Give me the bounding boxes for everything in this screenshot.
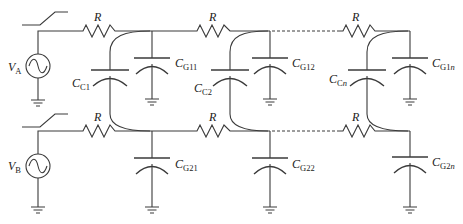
sine-wave-icon — [29, 159, 47, 173]
ground-capacitor-g2n-icon — [392, 131, 428, 213]
resistor-a2-label: R — [208, 10, 217, 24]
coupling-capacitor-cn-label: CCn — [329, 72, 347, 88]
source-va-label: VA — [8, 60, 22, 76]
resistor-b1-label: R — [93, 110, 102, 124]
ground-capacitor-g2n-label: CG2n — [432, 155, 455, 171]
resistor-bn-label: R — [351, 110, 360, 124]
ground-icon — [31, 207, 45, 213]
switch-b-icon — [22, 114, 68, 127]
coupling-capacitor-c2-label: CC2 — [194, 81, 212, 97]
sine-wave-icon — [29, 59, 47, 73]
coupling-capacitor-c2-icon — [211, 31, 268, 131]
ground-capacitor-g12-icon — [252, 31, 288, 105]
switch-a-icon — [22, 12, 68, 25]
source-va-group: VA — [8, 12, 80, 106]
ground-capacitor-g22-label: CG22 — [292, 157, 315, 173]
wire — [38, 31, 80, 54]
ground-capacitor-g11-label: CG11 — [175, 56, 197, 72]
ground-capacitor-g22-icon — [252, 131, 288, 213]
wire — [38, 131, 80, 154]
resistor-b2-label: R — [208, 110, 217, 124]
ground-capacitor-g12-label: CG12 — [292, 56, 315, 72]
ground-capacitor-g1n-label: CG1n — [432, 56, 455, 72]
ground-icon — [31, 100, 45, 106]
source-vb-group: VB — [8, 114, 80, 213]
coupled-rc-ladder-circuit: VA R CC1 CG11 R CC2 CG12 — [0, 0, 463, 224]
resistor-b2-icon — [152, 125, 270, 137]
ground-capacitor-g11-icon — [134, 31, 170, 105]
resistor-bn-icon — [340, 125, 410, 137]
resistor-a1-label: R — [93, 10, 102, 24]
resistor-an-label: R — [351, 10, 360, 24]
source-vb-label: VB — [8, 159, 21, 175]
ground-capacitor-g21-icon — [134, 131, 170, 213]
coupling-capacitor-c1-label: CC1 — [72, 76, 90, 92]
resistor-a2-icon — [152, 25, 270, 37]
ground-capacitor-g21-label: CG21 — [175, 157, 198, 173]
resistor-b1-icon — [80, 125, 152, 137]
ground-capacitor-g1n-icon — [392, 31, 428, 105]
